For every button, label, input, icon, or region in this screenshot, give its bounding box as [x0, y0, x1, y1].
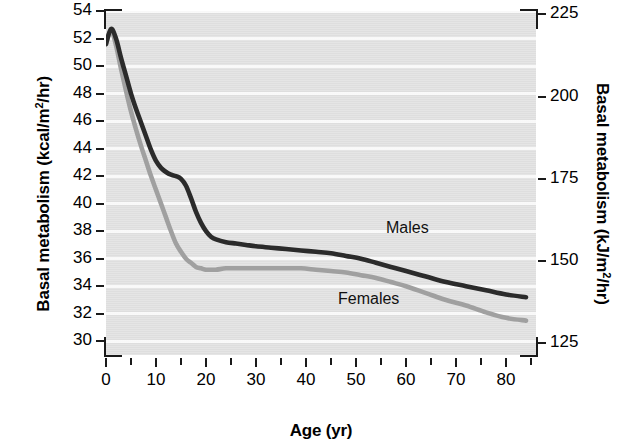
x-axis-minor-tick — [530, 358, 532, 365]
frame-top-left-cap — [104, 9, 122, 11]
y-axis-left-tick — [96, 65, 104, 67]
x-axis-minor-tick — [180, 358, 182, 365]
x-axis-tick-label: 0 — [86, 370, 126, 390]
y-axis-left-tick — [96, 230, 104, 232]
y-axis-left-title-text: Basal metabolism (kcal/m2/hr) — [34, 76, 53, 312]
x-axis-minor-tick — [230, 358, 232, 365]
y-axis-right-tick — [538, 342, 546, 344]
y-axis-left-tick-label: 36 — [52, 248, 92, 268]
frame-corner-bottom-right — [536, 337, 538, 357]
x-axis-tick — [505, 358, 507, 367]
x-axis-tick — [155, 358, 157, 367]
y-axis-left-tick — [96, 258, 104, 260]
x-axis-tick-label: 50 — [336, 370, 376, 390]
x-axis-tick — [405, 358, 407, 367]
x-axis-tick-label: 10 — [136, 370, 176, 390]
x-axis-tick — [255, 358, 257, 367]
y-axis-right-title: Basal metabolism (kJ/m2/hr) — [592, 29, 614, 359]
x-axis-tick — [205, 358, 207, 367]
y-axis-left-tick — [96, 10, 104, 12]
y-axis-right-tick — [538, 260, 546, 262]
x-axis-minor-tick — [380, 358, 382, 365]
x-axis-tick-label: 60 — [386, 370, 426, 390]
y-axis-left-tick-label: 54 — [52, 0, 92, 20]
y-axis-left-tick — [96, 148, 104, 150]
x-axis-tick — [355, 358, 357, 367]
series-label-females: Females — [338, 290, 399, 308]
y-axis-right-tick — [538, 13, 546, 15]
y-axis-left-tick-label: 34 — [52, 275, 92, 295]
x-axis-minor-tick — [130, 358, 132, 365]
y-axis-left-tick — [96, 38, 104, 40]
y-axis-right-tick-label: 200 — [550, 86, 594, 106]
y-axis-left-tick-label: 40 — [52, 193, 92, 213]
y-axis-left-tick-label: 48 — [52, 83, 92, 103]
frame-baseline-left — [104, 355, 122, 357]
x-axis-minor-tick — [280, 358, 282, 365]
x-axis-minor-tick — [430, 358, 432, 365]
x-axis-title: Age (yr) — [106, 421, 536, 441]
series-label-males: Males — [386, 219, 429, 237]
x-axis-tick-label: 40 — [286, 370, 326, 390]
y-axis-right-tick-label: 175 — [550, 168, 594, 188]
y-axis-left-tick — [96, 203, 104, 205]
x-axis-tick-label: 80 — [486, 370, 526, 390]
y-axis-left-tick — [96, 313, 104, 315]
x-axis-minor-tick — [330, 358, 332, 365]
y-axis-left-tick — [96, 175, 104, 177]
series-curves — [106, 11, 536, 355]
y-axis-right-title-text: Basal metabolism (kJ/m2/hr) — [593, 83, 612, 305]
y-axis-left-tick-label: 38 — [52, 220, 92, 240]
series-line-males — [106, 29, 526, 297]
y-axis-right-tick-label: 150 — [550, 250, 594, 270]
frame-top-right-cap — [520, 9, 538, 11]
y-axis-right-tick — [538, 96, 546, 98]
y-axis-left-tick-label: 32 — [52, 303, 92, 323]
basal-metabolism-chart: Basal metabolism (kcal/m2/hr) Basal meta… — [0, 0, 640, 445]
frame-corner-top-right — [536, 11, 538, 29]
x-axis-tick-label: 30 — [236, 370, 276, 390]
y-axis-left-tick-label: 46 — [52, 110, 92, 130]
y-axis-left-tick-label: 42 — [52, 165, 92, 185]
frame-corner-top-left — [104, 11, 106, 29]
y-axis-left-title: Basal metabolism (kcal/m2/hr) — [32, 29, 54, 359]
y-axis-left-tick — [96, 285, 104, 287]
plot-area — [106, 11, 536, 355]
y-axis-right-tick-label: 125 — [550, 332, 594, 352]
x-axis-tick-label: 20 — [186, 370, 226, 390]
y-axis-right-tick-label: 225 — [550, 3, 594, 23]
x-axis-tick-label: 70 — [436, 370, 476, 390]
x-axis-tick — [305, 358, 307, 367]
y-axis-left-tick-label: 52 — [52, 28, 92, 48]
x-axis-tick — [105, 358, 107, 367]
y-axis-left-tick-label: 30 — [52, 330, 92, 350]
y-axis-left-tick — [96, 340, 104, 342]
x-axis-tick — [455, 358, 457, 367]
y-axis-left-tick — [96, 93, 104, 95]
y-axis-left-tick-label: 50 — [52, 55, 92, 75]
y-axis-left-tick — [96, 120, 104, 122]
frame-corner-bottom-left — [104, 337, 106, 357]
y-axis-left-tick-label: 44 — [52, 138, 92, 158]
y-axis-right-tick — [538, 178, 546, 180]
x-axis-minor-tick — [480, 358, 482, 365]
